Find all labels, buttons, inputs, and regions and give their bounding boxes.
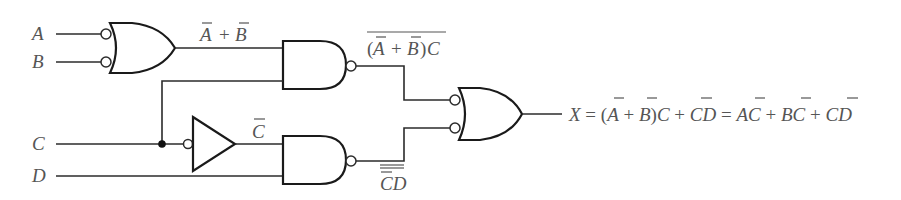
svg-text:A: A (198, 24, 212, 45)
svg-text:B: B (407, 38, 419, 59)
nand-gate-2 (283, 136, 346, 184)
input-label-c: C (32, 133, 45, 154)
inverter-bubble-or2-top (450, 95, 460, 105)
or-gate-1 (110, 23, 175, 73)
junction-dot (158, 140, 166, 148)
svg-text:): ) (420, 38, 426, 60)
label-c-bar: C (252, 119, 265, 142)
output-expression: X = (A + B)C + CD = AC + BC + CD (568, 98, 858, 126)
wire-nand1-out (356, 66, 450, 100)
svg-text:CD: CD (380, 173, 407, 194)
svg-text:C: C (427, 38, 440, 59)
svg-text:X = (A + B)C + CD = AC + BC +: X = (A + B)C + CD = AC + BC + CD (568, 104, 852, 126)
svg-text:+: + (219, 24, 230, 45)
inverter-bubble-or2-bottom (450, 123, 460, 133)
label-a-bar-plus-b-bar: A + B (198, 23, 249, 45)
not-input-bubble (184, 140, 193, 149)
label-nand2-output: CD (380, 165, 407, 194)
inverter-bubble-a (101, 29, 111, 39)
svg-text:C: C (252, 121, 265, 142)
logic-circuit-diagram: A B C D A + B ( A + B ) C (0, 0, 901, 200)
svg-text:+: + (391, 38, 402, 59)
input-label-b: B (32, 51, 44, 72)
wire-nand2-out (356, 128, 450, 161)
label-nand1-output: ( A + B ) C (367, 32, 446, 60)
wire-c-to-nand1 (162, 81, 283, 144)
input-label-a: A (30, 23, 44, 44)
nand-2-output-bubble (346, 156, 356, 166)
svg-text:B: B (235, 24, 247, 45)
input-label-d: D (31, 165, 46, 186)
nand-gate-1 (283, 41, 346, 89)
not-gate (193, 117, 235, 171)
nand-1-output-bubble (346, 61, 356, 71)
or-gate-2 (459, 88, 522, 140)
svg-text:A: A (371, 38, 385, 59)
inverter-bubble-b (101, 57, 111, 67)
